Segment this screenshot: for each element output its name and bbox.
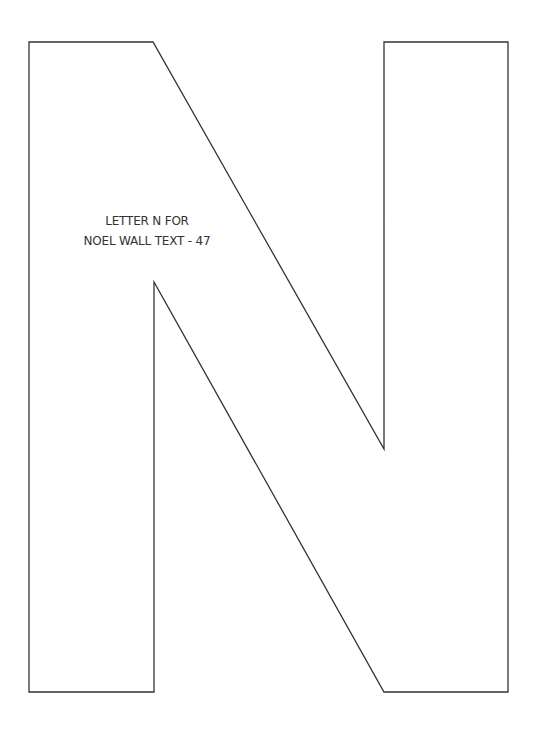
letter-n-outline: [0, 0, 536, 737]
printable-page: LETTER N FOR NOEL WALL TEXT - 47: [0, 0, 536, 737]
letter-caption: LETTER N FOR NOEL WALL TEXT - 47: [47, 211, 247, 251]
caption-line-1: LETTER N FOR: [47, 211, 247, 231]
caption-line-2: NOEL WALL TEXT - 47: [47, 231, 247, 251]
